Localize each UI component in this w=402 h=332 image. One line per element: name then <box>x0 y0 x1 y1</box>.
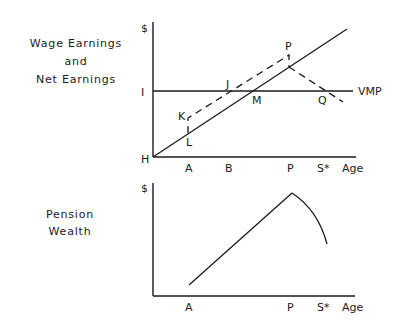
x-tick-s-star-bottom: S* <box>317 301 330 314</box>
pension-declining-curve <box>292 193 327 244</box>
x-tick-a-bottom: A <box>185 301 193 314</box>
x-tick-p-bottom: P <box>287 301 294 314</box>
i-tick-label: I <box>141 86 144 99</box>
top-panel: Wage Earnings and Net Earnings $ VMP I P… <box>30 22 382 175</box>
bottom-panel: Pension Wealth $ A P S* Age <box>46 182 364 314</box>
net-earnings-dashed-upper <box>188 55 289 133</box>
point-p-label: P <box>285 40 292 53</box>
side-label-line-1: Wage Earnings <box>30 37 122 50</box>
point-j-label: J <box>225 78 229 91</box>
origin-h-label: H <box>141 153 149 166</box>
net-earnings-dashed-decline <box>289 67 343 102</box>
pension-label-line-2: Wealth <box>49 225 92 238</box>
y-axis-dollar-bottom: $ <box>141 182 148 195</box>
point-q-label: Q <box>318 94 327 107</box>
x-axis-label: Age <box>342 162 364 175</box>
y-axis-dollar: $ <box>141 22 148 35</box>
side-label-line-2: and <box>64 55 87 68</box>
x-tick-b: B <box>225 162 233 175</box>
vmp-label: VMP <box>358 85 382 98</box>
wage-earnings-line <box>153 29 347 157</box>
x-tick-p: P <box>287 162 294 175</box>
pension-label-line-1: Pension <box>46 208 94 221</box>
point-m-label: M <box>252 94 262 107</box>
x-tick-a: A <box>185 162 193 175</box>
point-k-label: K <box>178 110 186 123</box>
x-axis-label-bottom: Age <box>342 301 364 314</box>
x-tick-s-star: S* <box>317 162 330 175</box>
point-l-label: L <box>186 136 193 149</box>
diagram: Wage Earnings and Net Earnings $ VMP I P… <box>0 0 402 332</box>
side-label-line-3: Net Earnings <box>36 73 116 86</box>
pension-rising-line <box>189 193 292 285</box>
